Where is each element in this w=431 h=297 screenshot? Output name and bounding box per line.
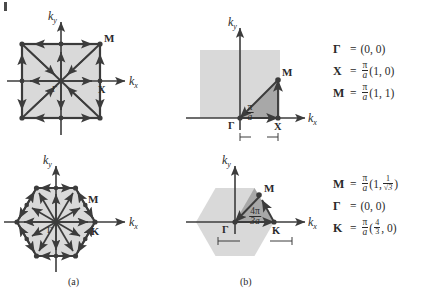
symbol-gamma: Γ (333, 42, 346, 57)
equals-sign: = (350, 87, 357, 99)
ky-axis-label-hexb: ky (222, 153, 231, 169)
panel-caption-a: (a) (68, 276, 79, 287)
hex-dim-num: 4π (249, 207, 261, 217)
m-hex-frac-den: a (362, 183, 369, 194)
square-dim-den: a (247, 112, 254, 123)
wedge-label-X: X (274, 121, 282, 132)
wedge-label-gamma: Γ (228, 120, 235, 131)
m-hex-inner-num: 1 (385, 175, 391, 183)
k-hex-frac-num: π (362, 218, 369, 228)
kx-axis-label-hexb: kx (308, 215, 317, 231)
equation-gamma-square: Γ = (0, 0) (333, 38, 394, 60)
hex-label-gamma: Γ (47, 225, 52, 235)
ky-axis-label-hex: ky (43, 153, 52, 169)
wedge-label-M: M (282, 66, 293, 78)
square-dimension-label: π a (246, 103, 255, 123)
value-gamma: (0, 0) (361, 43, 386, 55)
equation-m-hex: M = π a (1, 1 √3 ) (333, 173, 398, 195)
value-x: (1, 0) (369, 65, 394, 77)
panel-caption-b: (b) (240, 276, 252, 287)
hex-zone-panel-a: M K Γ kx ky (4, 153, 138, 272)
symbol-m: M (333, 86, 346, 101)
k-hex-frac-den: a (362, 227, 369, 238)
square-dim-num: π (247, 103, 254, 113)
hex-wedge-panel-b: M K Γ kx ky (186, 153, 317, 256)
equals-sign: = (350, 200, 357, 212)
hex-dim-den: 3a (249, 216, 261, 227)
equals-sign: = (350, 222, 357, 234)
square-label-M: M (104, 32, 115, 44)
equation-gamma-hex: Γ = (0, 0) (333, 195, 398, 217)
ky-axis-label-b: ky (228, 15, 237, 31)
ky-axis-label: ky (48, 9, 57, 25)
equation-x-square: X = π a (1, 0) (333, 60, 394, 82)
equation-m-square: M = π a (1, 1) (333, 82, 394, 104)
hex-wedge-label-gamma: Γ (222, 224, 229, 235)
hex-label-K: K (91, 226, 100, 237)
square-label-X: X (98, 84, 106, 95)
m-frac-num: π (362, 83, 369, 93)
equals-sign: = (350, 65, 357, 77)
equation-k-hex: K = π a ( 4 3 , 0) (333, 217, 398, 239)
symbol-x: X (333, 64, 346, 79)
symbol-gamma-hex: Γ (333, 199, 346, 214)
hex-wedge-label-M: M (264, 182, 275, 194)
k-hex-inner-den: 3 (374, 227, 380, 236)
square-label-gamma: Γ (52, 84, 57, 94)
dimension-bar-pi-a (240, 133, 278, 141)
x-frac-den: a (362, 70, 369, 81)
hexagon-equations: M = π a (1, 1 √3 ) Γ = (0, 0) K = π a ( … (333, 173, 398, 239)
k-hex-close: , 0) (381, 222, 396, 234)
m-hex-close: ) (394, 178, 398, 190)
hex-dimension-label: 4π 3a (248, 207, 262, 227)
square-zone-panel-a: M X Γ kx ky (7, 9, 138, 135)
symbol-m-hex: M (333, 177, 346, 192)
hex-label-M: M (88, 193, 99, 205)
symbol-k-hex: K (333, 221, 346, 236)
kx-axis-label: kx (129, 74, 138, 90)
equals-sign: = (350, 43, 357, 55)
m-hex-open: (1, (369, 178, 381, 190)
k-hex-open: ( (369, 222, 373, 234)
x-frac-num: π (362, 61, 369, 71)
kx-axis-label-b: kx (308, 111, 317, 127)
m-hex-inner-den: √3 (383, 183, 393, 192)
equals-sign: = (350, 178, 357, 190)
k-hex-inner-num: 4 (374, 219, 380, 227)
hex-wedge-label-K: K (272, 225, 281, 236)
m-hex-frac-num: π (362, 174, 369, 184)
m-frac-den: a (362, 92, 369, 103)
square-equations: Γ = (0, 0) X = π a (1, 0) M = π a (1, 1) (333, 38, 394, 104)
value-m: (1, 1) (369, 87, 394, 99)
value-gamma-hex: (0, 0) (361, 200, 386, 212)
kx-axis-label-hex: kx (129, 215, 138, 231)
